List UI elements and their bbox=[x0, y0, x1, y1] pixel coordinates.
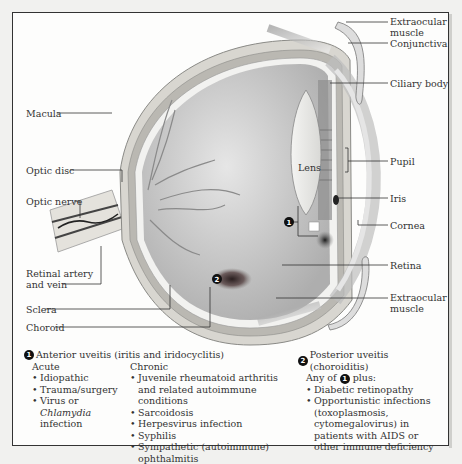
label-sclera: Sclera bbox=[26, 304, 57, 315]
label-extraocular-muscle-bottom: Extraocular muscle bbox=[390, 292, 450, 314]
legend-posterior-item: Diabetic retinopathy bbox=[306, 384, 446, 396]
anterior-lesion bbox=[316, 231, 334, 249]
legend-acute-item: Trauma/surgery bbox=[32, 384, 130, 396]
label-retinal-artery-vein: Retinal artery and vein bbox=[26, 268, 96, 290]
legend-acute-column: Acute Idiopathic Trauma/surgery Virus or… bbox=[24, 361, 130, 464]
marker-1-icon: 1 bbox=[24, 350, 34, 360]
legend-anterior-uveitis: 1 Anterior uveitis (iritis and iridocycl… bbox=[24, 349, 294, 464]
label-ciliary-body: Ciliary body bbox=[390, 78, 448, 89]
label-cornea: Cornea bbox=[390, 220, 425, 231]
label-retina: Retina bbox=[390, 260, 421, 271]
legend-acute-heading: Acute bbox=[32, 361, 130, 373]
legend-chronic-item: Juvenile rheumatoid arthritis and relate… bbox=[130, 372, 290, 407]
label-optic-disc: Optic disc bbox=[26, 165, 74, 176]
legend-chronic-item: Herpesvirus infection bbox=[130, 418, 290, 430]
legend-chronic-heading: Chronic bbox=[130, 361, 290, 373]
marker-2-icon: 2 bbox=[298, 356, 308, 366]
legend-chronic-item: Syphilis bbox=[130, 430, 290, 442]
label-extraocular-muscle-top: Extraocular muscle bbox=[390, 16, 450, 38]
marker-2-icon: 2 bbox=[212, 274, 222, 284]
label-choroid: Choroid bbox=[26, 322, 65, 333]
legend-chronic-item: Sympathetic (autoimmune) ophthalmitis bbox=[130, 441, 290, 464]
label-conjunctiva: Conjunctiva bbox=[390, 38, 448, 49]
marker-1-icon: 1 bbox=[284, 217, 294, 227]
label-iris: Iris bbox=[390, 193, 406, 204]
legend-posterior-uveitis: 2 Posterior uveitis (choroiditis) Any of… bbox=[298, 349, 446, 453]
legend-posterior-item: Opportunistic infections (toxoplasmosis,… bbox=[306, 395, 446, 453]
legend-chronic-item: Sarcoidosis bbox=[130, 407, 290, 419]
svg-text:2: 2 bbox=[215, 276, 220, 284]
legend-posterior-title: Posterior uveitis (choroiditis) bbox=[310, 349, 446, 372]
legend-anterior-title: Anterior uveitis (iritis and iridocyclit… bbox=[36, 349, 224, 361]
label-macula: Macula bbox=[26, 108, 62, 119]
lens-label: Lens bbox=[298, 162, 321, 173]
label-pupil: Pupil bbox=[390, 156, 415, 167]
legend-acute-item: Virus or Chlamydia infection bbox=[32, 395, 130, 430]
iris-dark bbox=[333, 195, 339, 205]
label-optic-nerve: Optic nerve bbox=[26, 196, 82, 207]
legend-any-of-line: Any of 1 plus: bbox=[306, 372, 446, 384]
legend-chronic-column: Chronic Juvenile rheumatoid arthritis an… bbox=[130, 361, 290, 464]
marker-1-icon: 1 bbox=[340, 374, 350, 384]
svg-text:1: 1 bbox=[287, 219, 292, 227]
legend-acute-item: Idiopathic bbox=[32, 372, 130, 384]
